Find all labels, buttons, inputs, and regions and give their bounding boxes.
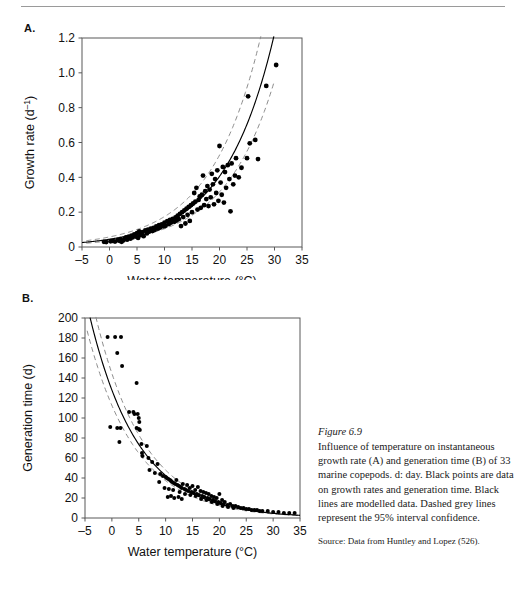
- data-point: [187, 218, 192, 223]
- y-tick-label: 20: [65, 491, 79, 505]
- data-point: [234, 156, 239, 161]
- y-tick-label: 1.0: [58, 66, 75, 80]
- x-tick-label: 30: [266, 524, 280, 538]
- data-point: [193, 488, 197, 492]
- model-line: [90, 318, 300, 516]
- data-point: [120, 364, 124, 368]
- x-tick-label: 20: [213, 253, 227, 267]
- y-tick-label: 0.8: [58, 101, 75, 115]
- y-tick-label: 1.2: [58, 31, 75, 45]
- data-point: [260, 509, 264, 513]
- data-point: [224, 185, 229, 190]
- data-points-group: [102, 63, 279, 245]
- y-tick-label: 0.6: [58, 136, 75, 150]
- y-tick-label: 200: [58, 311, 78, 325]
- data-point: [274, 63, 279, 68]
- data-point: [156, 462, 160, 466]
- y-tick-label: 0: [71, 511, 78, 525]
- data-point: [218, 180, 223, 185]
- x-tick-label: 10: [158, 253, 172, 267]
- data-point: [229, 161, 234, 166]
- data-points-group: [106, 335, 297, 515]
- panel-b-letter: B.: [22, 292, 33, 304]
- data-point: [180, 497, 184, 501]
- data-point: [150, 460, 154, 464]
- data-point: [113, 335, 117, 339]
- data-point: [136, 412, 140, 416]
- y-tick-label: 0.4: [58, 171, 75, 185]
- data-point: [146, 456, 150, 460]
- y-tick-label: 140: [58, 371, 78, 385]
- x-tick-label: 0: [109, 524, 116, 538]
- data-point: [214, 191, 219, 196]
- data-point: [236, 175, 241, 180]
- data-point: [217, 492, 221, 496]
- data-point: [212, 202, 217, 207]
- data-point: [231, 182, 236, 187]
- data-point: [221, 504, 225, 508]
- data-point: [215, 168, 220, 173]
- data-point: [219, 192, 224, 197]
- data-point: [206, 204, 211, 209]
- y-tick-label: 180: [58, 331, 78, 345]
- data-point: [171, 488, 175, 492]
- data-point: [217, 144, 222, 149]
- figure-page: A. B. –50510152025303500.20.40.60.81.01.…: [0, 0, 523, 591]
- data-point: [108, 425, 112, 429]
- data-point: [264, 84, 269, 89]
- data-point: [271, 510, 275, 514]
- data-point: [138, 428, 142, 432]
- data-point: [227, 177, 232, 182]
- data-point: [222, 200, 227, 205]
- data-point: [191, 484, 195, 488]
- y-tick-label: 80: [65, 431, 79, 445]
- data-point: [246, 94, 251, 99]
- x-tick-label: 5: [135, 524, 142, 538]
- x-axis-title: Water temperature (°C): [127, 274, 257, 280]
- data-point: [153, 471, 157, 475]
- x-tick-label: 35: [293, 524, 307, 538]
- data-point: [208, 195, 213, 200]
- data-point: [192, 191, 197, 196]
- data-point: [266, 509, 270, 513]
- data-point: [185, 483, 189, 487]
- data-point: [207, 187, 212, 192]
- data-point: [119, 335, 123, 339]
- data-point: [204, 498, 208, 502]
- data-point: [145, 444, 149, 448]
- data-point: [137, 416, 141, 420]
- x-tick-label: 15: [186, 524, 200, 538]
- data-point: [256, 157, 261, 162]
- panel-b-chart: –505101520253035020406080100120140160180…: [0, 310, 340, 565]
- data-point: [104, 240, 109, 245]
- data-point: [239, 165, 244, 170]
- data-point: [204, 197, 209, 202]
- data-point: [202, 203, 207, 208]
- page-top-rule: [21, 6, 505, 7]
- data-point: [117, 440, 121, 444]
- data-point: [188, 493, 192, 497]
- y-tick-label: 0.2: [58, 205, 75, 219]
- x-tick-label: 0: [106, 253, 113, 267]
- data-point: [118, 426, 122, 430]
- figure-caption-block: Figure 6.9 Influence of temperature on i…: [318, 425, 514, 548]
- y-tick-label: 60: [65, 451, 79, 465]
- plot-frame: [82, 38, 302, 247]
- data-point: [127, 410, 131, 414]
- data-point: [215, 502, 219, 506]
- model-line: [82, 36, 274, 242]
- data-point: [220, 164, 225, 169]
- figure-source-text: Source: Data from Huntley and Lopez (526…: [318, 535, 514, 548]
- data-point: [181, 482, 185, 486]
- x-tick-label: 15: [185, 253, 199, 267]
- data-point: [231, 506, 235, 510]
- data-point: [179, 224, 184, 229]
- data-point: [213, 177, 218, 182]
- data-point: [203, 189, 208, 194]
- data-point: [190, 210, 195, 215]
- panel-a-svg: –50510152025303500.20.40.60.81.01.2Water…: [0, 30, 340, 280]
- data-point: [181, 215, 186, 220]
- data-point: [223, 500, 227, 504]
- figure-caption-text: Influence of temperature on instantaneou…: [318, 440, 514, 525]
- data-point: [148, 468, 152, 472]
